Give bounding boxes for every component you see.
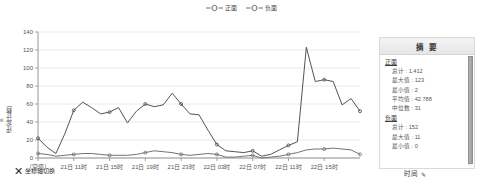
legend-label-positive: 正面 (225, 5, 237, 12)
measure-icon: ⊜ (0, 117, 4, 123)
summary-stat: 总计 : 152 (385, 123, 467, 132)
svg-text:21日 11时: 21日 11时 (60, 163, 87, 171)
axis-toggle-button[interactable]: ✕ 坐标轴切换 (14, 166, 55, 177)
svg-text:22日 07时: 22日 07时 (239, 163, 266, 171)
svg-text:140: 140 (23, 29, 34, 35)
line-chart-plot[interactable]: 020406080100120140（空值）21日 11时21日 15时21日 … (0, 16, 380, 176)
summary-stat: 中位数 : 31 (385, 104, 467, 113)
legend-item-positive[interactable]: 正面 (206, 4, 237, 12)
circle-marker-line-icon (246, 4, 263, 12)
legend-label-negative: 负面 (265, 5, 277, 12)
chart-area[interactable]: 020406080100120140（空值）21日 11时21日 15时21日 … (0, 16, 380, 176)
svg-text:0: 0 (30, 155, 34, 161)
svg-text:80: 80 (26, 83, 33, 89)
summary-scrollbar-thumb[interactable] (468, 56, 473, 164)
summary-stat: 最小值 : 0 (385, 142, 467, 151)
axis-toggle-label: 坐标轴切换 (25, 168, 55, 175)
legend-item-negative[interactable]: 负面 (246, 4, 277, 12)
summary-stat: 总计 : 1,412 (385, 67, 467, 76)
svg-text:40: 40 (26, 119, 33, 125)
svg-text:21日 15时: 21日 15时 (96, 163, 123, 171)
svg-text:120: 120 (23, 47, 34, 53)
chart-legend: 正面 负面 (0, 2, 483, 14)
svg-text:60: 60 (26, 101, 33, 107)
chart-page: 正面 负面 020406080100120140（空值）21日 11时21日 1… (0, 0, 483, 194)
svg-text:22日 03时: 22日 03时 (203, 163, 230, 171)
swap-axes-x-icon: ✕ (14, 166, 23, 177)
summary-group-title: 正面 (385, 58, 467, 67)
summary-title: 摘 要 (416, 41, 438, 52)
circle-marker-line-icon (206, 4, 223, 12)
summary-stat: 最小值 : 2 (385, 86, 467, 95)
svg-text:22日 11时: 22日 11时 (275, 163, 302, 171)
summary-scrollbar[interactable] (468, 56, 473, 166)
svg-text:22日 15时: 22日 15时 (311, 163, 338, 171)
svg-text:21日 23时: 21日 23时 (168, 163, 195, 171)
svg-text:20: 20 (26, 137, 33, 143)
x-axis-title-label: 时间 (404, 170, 418, 178)
svg-text:21日 19时: 21日 19时 (132, 163, 159, 171)
summary-header: 摘 要 (380, 38, 474, 55)
summary-stat: 平均值 : 42.788 (385, 95, 467, 104)
y-axis-title[interactable]: ⊜ 评论[计数] (1, 74, 11, 166)
summary-group-title: 负面 (385, 114, 467, 123)
x-axis-title[interactable]: 时间 ✎ (404, 170, 426, 178)
edit-pencil-icon[interactable]: ✎ (421, 171, 426, 178)
summary-stat: 最大值 : 11 (385, 133, 467, 142)
summary-stat: 最大值 : 123 (385, 76, 467, 85)
y-axis-title-label: 评论[计数] (6, 106, 13, 133)
summary-panel: 摘 要 正面总计 : 1,412最大值 : 123最小值 : 2平均值 : 42… (379, 37, 475, 169)
svg-text:100: 100 (23, 65, 34, 71)
summary-body: 正面总计 : 1,412最大值 : 123最小值 : 2平均值 : 42.788… (380, 55, 467, 168)
